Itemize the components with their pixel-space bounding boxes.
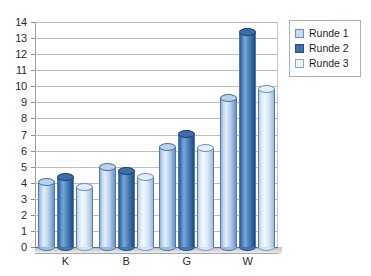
bar-top-ellipse [76, 183, 93, 191]
bar-k-series-2 [57, 173, 74, 247]
x-axis-label-g: G [183, 256, 192, 267]
y-axis-tick-label: 3 [21, 193, 27, 204]
legend-swatch-icon [295, 29, 304, 38]
bar-k-series-1 [38, 178, 55, 247]
bar-b-series-1 [99, 163, 116, 247]
bar-body [220, 98, 237, 247]
y-axis-tick-label: 13 [15, 33, 27, 44]
bar-w-series-1 [220, 94, 237, 247]
bar-w-series-2 [239, 28, 256, 247]
y-axis-tick [31, 199, 35, 200]
y-axis-tick [31, 102, 35, 103]
legend-item-2[interactable]: Runde 2 [295, 41, 356, 56]
bar-top-ellipse [137, 173, 154, 181]
y-axis-tick [31, 167, 35, 168]
legend-item-label: Runde 1 [309, 28, 349, 39]
y-axis-tick-label: 14 [15, 17, 27, 28]
bar-top-ellipse [178, 130, 195, 138]
bar-k-series-3 [76, 183, 93, 247]
x-axis-label-w: W [242, 256, 252, 267]
bar-top-ellipse [258, 85, 275, 93]
legend-swatch-icon [295, 59, 304, 68]
gridline [35, 22, 278, 23]
axis-floor-edge [35, 253, 281, 254]
legend-item-label: Runde 2 [309, 43, 349, 54]
y-axis-tick [31, 183, 35, 184]
bar-b-series-2 [118, 167, 135, 247]
x-axis-label-k: K [62, 256, 69, 267]
bar-body [99, 167, 116, 247]
y-axis-tick-label: 6 [21, 145, 27, 156]
y-axis-tick-label: 9 [21, 97, 27, 108]
y-axis-tick [31, 231, 35, 232]
y-axis-tick [31, 215, 35, 216]
bar-body [239, 32, 256, 247]
bar-body [197, 148, 214, 247]
bar-body [76, 187, 93, 247]
bar-top-ellipse [57, 173, 74, 181]
y-axis-tick-label: 11 [16, 65, 27, 76]
bar-g-series-1 [159, 143, 176, 247]
bar-body [178, 134, 195, 247]
y-axis-tick-label: 2 [21, 209, 27, 220]
bar-body [137, 177, 154, 247]
bar-body [159, 147, 176, 247]
y-axis-tick-label: 12 [15, 49, 27, 60]
y-axis-tick-labels: 01234567891011121314 [0, 0, 31, 276]
bar-body [258, 89, 275, 247]
y-axis-tick-label: 5 [21, 161, 27, 172]
legend-swatch-icon [295, 44, 304, 53]
y-axis-tick-label: 7 [21, 129, 27, 140]
x-axis-label-b: B [122, 256, 129, 267]
bar-top-ellipse [159, 143, 176, 151]
y-axis-tick-label: 8 [21, 113, 27, 124]
y-axis-tick [31, 70, 35, 71]
bar-top-ellipse [38, 178, 55, 186]
y-axis-tick-label: 4 [21, 177, 27, 188]
bar-b-series-3 [137, 173, 154, 247]
bar-body [118, 171, 135, 247]
y-axis-tick [31, 135, 35, 136]
bar-body [38, 182, 55, 247]
y-axis-tick [31, 54, 35, 55]
bar-g-series-3 [197, 144, 214, 247]
y-axis-tick-label: 1 [21, 225, 27, 236]
y-axis-tick [31, 22, 35, 23]
y-axis-tick-label: 10 [15, 81, 27, 92]
legend-item-3[interactable]: Runde 3 [295, 56, 356, 71]
y-axis-tick [31, 151, 35, 152]
plot-area [35, 22, 278, 247]
bar-top-ellipse [118, 167, 135, 175]
bar-chart: 01234567891011121314 Runde 1Runde 2Runde… [0, 0, 371, 276]
axis-floor-right-edge [278, 247, 282, 254]
y-axis-tick [31, 118, 35, 119]
y-axis-tick-label: 0 [21, 242, 27, 253]
y-axis-tick [31, 86, 35, 87]
bar-w-series-3 [258, 85, 275, 247]
y-axis-tick [31, 38, 35, 39]
bar-g-series-2 [178, 130, 195, 247]
chart-legend: Runde 1Runde 2Runde 3 [289, 20, 361, 77]
legend-item-label: Runde 3 [309, 58, 349, 69]
bar-body [57, 177, 74, 247]
legend-item-1[interactable]: Runde 1 [295, 26, 356, 41]
